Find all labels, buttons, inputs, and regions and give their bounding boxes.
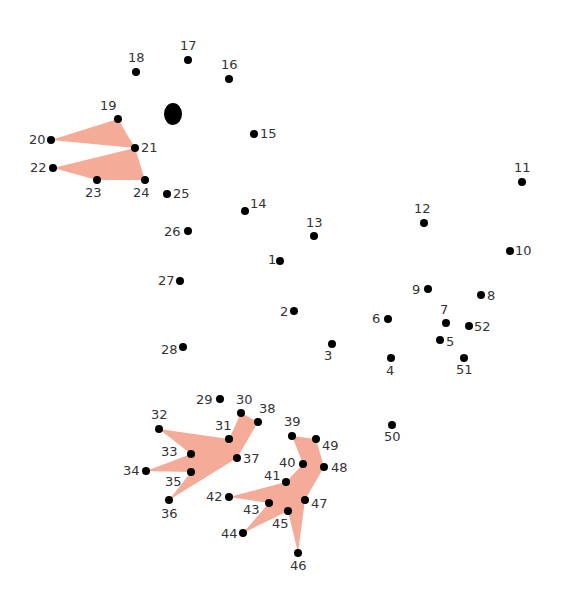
dot-label-44: 44 bbox=[221, 527, 238, 541]
dot-label-50: 50 bbox=[384, 430, 401, 444]
dot-label-5: 5 bbox=[446, 335, 454, 349]
dot-label-20: 20 bbox=[29, 133, 46, 147]
dot-label-1: 1 bbox=[268, 253, 276, 267]
dot-label-33: 33 bbox=[161, 445, 178, 459]
dot-37 bbox=[233, 454, 241, 462]
dot-label-32: 32 bbox=[151, 408, 168, 422]
dot-label-29: 29 bbox=[196, 393, 213, 407]
dot-4 bbox=[387, 354, 395, 362]
dot-label-51: 51 bbox=[456, 363, 473, 377]
dot-label-4: 4 bbox=[386, 364, 394, 378]
dot-41 bbox=[282, 478, 290, 486]
dot-label-49: 49 bbox=[322, 439, 339, 453]
dot-49 bbox=[312, 435, 320, 443]
dot-26 bbox=[184, 227, 192, 235]
dot-44 bbox=[239, 529, 247, 537]
dot-label-16: 16 bbox=[221, 58, 238, 72]
dot-label-41: 41 bbox=[264, 469, 281, 483]
dot-47 bbox=[301, 496, 309, 504]
dot-17 bbox=[184, 56, 192, 64]
dot-29 bbox=[216, 395, 224, 403]
lower-beak-shape bbox=[53, 148, 145, 180]
dot-label-31: 31 bbox=[215, 419, 232, 433]
dot-label-3: 3 bbox=[324, 349, 332, 363]
dot-18 bbox=[132, 68, 140, 76]
dot-label-43: 43 bbox=[243, 503, 260, 517]
dot-32 bbox=[155, 425, 163, 433]
dot-5 bbox=[436, 336, 444, 344]
dot-38 bbox=[254, 418, 262, 426]
dot-label-27: 27 bbox=[158, 274, 175, 288]
dot-label-26: 26 bbox=[164, 225, 181, 239]
dot-label-39: 39 bbox=[284, 415, 301, 429]
dot-40 bbox=[299, 460, 307, 468]
dot-label-9: 9 bbox=[412, 283, 420, 297]
dot-label-15: 15 bbox=[260, 127, 277, 141]
dot-43 bbox=[265, 499, 273, 507]
dot-7 bbox=[442, 319, 450, 327]
dot-label-23: 23 bbox=[85, 186, 102, 200]
dot-16 bbox=[225, 75, 233, 83]
dot-label-36: 36 bbox=[161, 507, 178, 521]
dot-label-24: 24 bbox=[133, 186, 150, 200]
dot-label-10: 10 bbox=[515, 244, 532, 258]
dot-34 bbox=[142, 467, 150, 475]
dot-14 bbox=[241, 207, 249, 215]
dot-label-8: 8 bbox=[487, 289, 495, 303]
dot-label-30: 30 bbox=[236, 393, 253, 407]
dot-13 bbox=[310, 232, 318, 240]
dot-24 bbox=[141, 176, 149, 184]
dot-12 bbox=[420, 219, 428, 227]
dot-label-28: 28 bbox=[161, 343, 178, 357]
dot-33 bbox=[187, 450, 195, 458]
dot-2 bbox=[290, 307, 298, 315]
dot-11 bbox=[518, 178, 526, 186]
dot-31 bbox=[225, 435, 233, 443]
dot-50 bbox=[388, 421, 396, 429]
dot-6 bbox=[384, 315, 392, 323]
dot-27 bbox=[176, 277, 184, 285]
dot-label-13: 13 bbox=[306, 216, 323, 230]
dot-label-34: 34 bbox=[123, 464, 140, 478]
dot-label-18: 18 bbox=[128, 51, 145, 65]
dot-36 bbox=[165, 496, 173, 504]
dot-label-19: 19 bbox=[100, 99, 117, 113]
dot-label-11: 11 bbox=[514, 161, 531, 175]
dot-9 bbox=[424, 285, 432, 293]
dot-label-52: 52 bbox=[474, 320, 491, 334]
dot-label-45: 45 bbox=[272, 517, 289, 531]
dot-3 bbox=[328, 340, 336, 348]
dot-label-48: 48 bbox=[331, 461, 348, 475]
dot-label-6: 6 bbox=[372, 312, 380, 326]
dot-42 bbox=[225, 493, 233, 501]
dot-39 bbox=[288, 432, 296, 440]
dot-label-40: 40 bbox=[279, 456, 296, 470]
bird-eye bbox=[164, 103, 182, 125]
dot-20 bbox=[47, 136, 55, 144]
dot-8 bbox=[477, 291, 485, 299]
dot-label-22: 22 bbox=[30, 161, 47, 175]
dot-15 bbox=[250, 130, 258, 138]
dot-48 bbox=[320, 463, 328, 471]
dot-1 bbox=[276, 257, 284, 265]
dot-label-47: 47 bbox=[311, 497, 328, 511]
dot-52 bbox=[465, 322, 473, 330]
dot-label-2: 2 bbox=[280, 305, 288, 319]
dot-label-21: 21 bbox=[141, 141, 158, 155]
dot-10 bbox=[506, 247, 514, 255]
dot-label-42: 42 bbox=[206, 490, 223, 504]
dot-51 bbox=[460, 354, 468, 362]
dot-35 bbox=[187, 468, 195, 476]
dot-25 bbox=[163, 190, 171, 198]
dot-46 bbox=[294, 549, 302, 557]
upper-beak-shape bbox=[51, 119, 135, 148]
dot-label-25: 25 bbox=[173, 187, 190, 201]
dot-30 bbox=[237, 409, 245, 417]
dot-to-dot-canvas: 1234567891011121314151617181920212223242… bbox=[0, 0, 566, 606]
dot-label-17: 17 bbox=[180, 39, 197, 53]
dot-45 bbox=[284, 507, 292, 515]
dot-label-14: 14 bbox=[250, 197, 267, 211]
dot-label-7: 7 bbox=[440, 303, 448, 317]
dot-21 bbox=[131, 144, 139, 152]
dot-label-38: 38 bbox=[259, 402, 276, 416]
